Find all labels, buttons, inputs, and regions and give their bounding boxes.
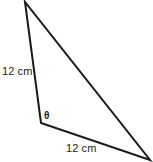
side-length-label-bottom: 12 cm: [66, 142, 96, 154]
side-length-label-left: 12 cm: [2, 65, 32, 77]
triangle-shape: [0, 0, 153, 162]
angle-label-theta: θ: [44, 110, 50, 122]
geometry-figure: 12 cm 12 cm θ: [0, 0, 153, 162]
triangle-outline: [25, 2, 150, 160]
